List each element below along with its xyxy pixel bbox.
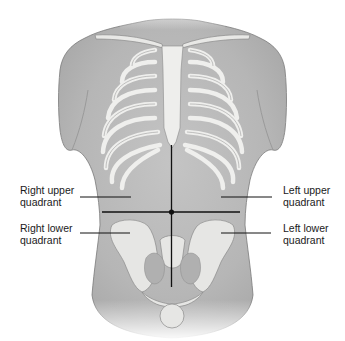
label-left-upper-line2: quadrant	[283, 196, 330, 208]
label-right-upper-quadrant: Right upper quadrant	[20, 184, 74, 208]
label-right-lower-quadrant: Right lower quadrant	[20, 222, 73, 246]
label-right-lower-line1: Right lower	[20, 222, 73, 234]
label-left-upper-quadrant: Left upper quadrant	[283, 184, 330, 208]
label-left-lower-quadrant: Left lower quadrant	[283, 222, 329, 246]
abdominal-quadrants-diagram	[0, 0, 345, 341]
label-left-lower-line1: Left lower	[283, 222, 329, 234]
label-left-upper-line1: Left upper	[283, 184, 330, 196]
umbilicus-marker	[169, 209, 174, 214]
label-right-upper-line1: Right upper	[20, 184, 74, 196]
label-right-lower-line2: quadrant	[20, 234, 73, 246]
label-left-lower-line2: quadrant	[283, 234, 329, 246]
label-right-upper-line2: quadrant	[20, 196, 74, 208]
